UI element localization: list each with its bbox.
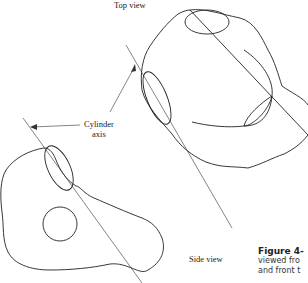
inner-arc — [192, 50, 272, 127]
top-ellipse — [185, 10, 229, 34]
leader-arrow-lower — [32, 125, 80, 127]
top-view-outline — [141, 10, 308, 168]
caption-line-2: and front t — [258, 266, 308, 276]
figure-caption: Figure 4- viewed fro and front t — [258, 246, 308, 276]
top-cylinder-axis-line — [126, 45, 232, 228]
leader-arrow-upper — [110, 66, 135, 112]
arrowhead-upper — [131, 64, 136, 72]
caption-line-1: viewed fro — [258, 256, 308, 266]
side-view-outline — [1, 148, 164, 272]
side-view-label: Side view — [189, 254, 224, 264]
side-inner-circle — [43, 207, 77, 241]
right-ellipse — [244, 96, 272, 126]
caption-title: Figure 4- — [258, 246, 308, 256]
top-view-label: Top view — [114, 0, 147, 10]
figure-drawing: Top view Cylinder axis Side view — [0, 0, 308, 283]
side-cylinder-axis-line — [23, 118, 142, 283]
cylinder-label: Cylinder — [84, 119, 114, 129]
axis-label: axis — [92, 129, 106, 139]
